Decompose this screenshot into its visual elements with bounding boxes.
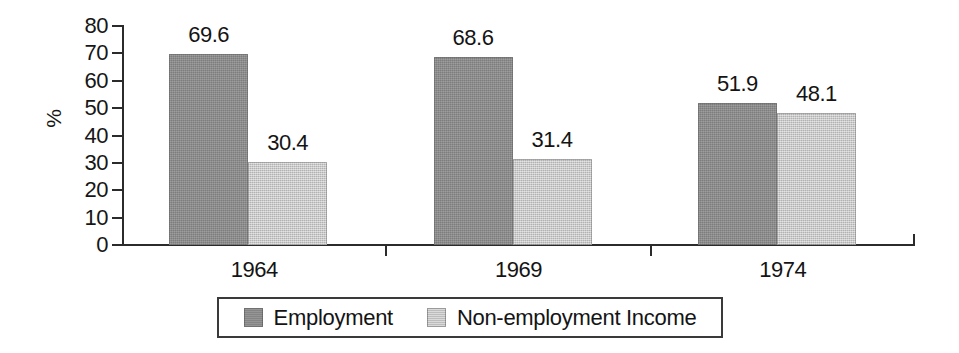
y-axis-tick-label: 10 (62, 207, 108, 229)
legend-item: Employment (244, 306, 393, 330)
y-axis-tick-label: 20 (62, 179, 108, 201)
bar (513, 159, 592, 245)
x-axis-category-label: 1974 (651, 258, 915, 282)
y-axis-tick-label: 50 (62, 97, 108, 119)
light-gray-swatch (427, 308, 446, 327)
bar-value-label: 30.4 (248, 132, 327, 154)
y-axis-tick-label: 60 (62, 70, 108, 92)
y-axis-tick-label: 40 (62, 125, 108, 147)
bar (169, 54, 248, 245)
dark-gray-swatch (244, 308, 263, 327)
legend-item: Non-employment Income (427, 306, 696, 330)
bar (248, 162, 327, 245)
bar (434, 57, 513, 245)
legend-label: Non-employment Income (457, 306, 696, 330)
bar-value-label: 68.6 (434, 27, 513, 49)
bar-value-label: 51.9 (698, 73, 777, 95)
legend-label: Employment (274, 306, 393, 330)
y-axis-tick-label: 80 (62, 15, 108, 37)
bar-chart: % 01020304050607080 69.630.468.631.451.9… (0, 0, 959, 353)
y-axis-tick-label: 70 (62, 42, 108, 64)
y-axis-title: % (43, 99, 64, 139)
y-axis-tick-label: 30 (62, 152, 108, 174)
bar-value-label: 69.6 (169, 24, 248, 46)
x-axis-category-label: 1964 (122, 258, 386, 282)
bar (777, 113, 856, 245)
bar-value-label: 31.4 (513, 129, 592, 151)
x-axis-category-label: 1969 (386, 258, 650, 282)
bar-value-label: 48.1 (777, 83, 856, 105)
y-axis-tick-label: 0 (62, 234, 108, 256)
bar (698, 103, 777, 245)
legend: EmploymentNon-employment Income (217, 297, 723, 338)
